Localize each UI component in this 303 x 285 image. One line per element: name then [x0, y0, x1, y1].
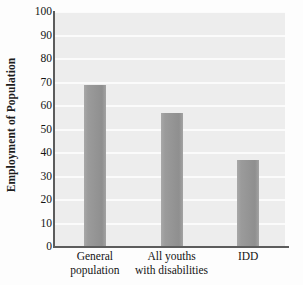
gridline	[55, 12, 285, 13]
bar	[161, 113, 183, 247]
y-tick-label: 80	[22, 53, 52, 65]
x-category-label: All youthswith disabilities	[133, 250, 210, 277]
x-category-label-line: IDD	[238, 250, 258, 262]
y-tick-label: 10	[22, 218, 52, 230]
x-category-label: IDD	[210, 250, 287, 264]
y-tick-label: 100	[22, 6, 52, 18]
y-tick-label: 50	[22, 124, 52, 136]
x-category-label-line: population	[57, 264, 134, 278]
plot-area	[55, 12, 285, 247]
y-axis-title-text: Employment of Population	[5, 58, 17, 193]
y-axis-tick-labels: 0102030405060708090100	[22, 12, 52, 247]
y-tick-label: 40	[22, 147, 52, 159]
y-tick-label: 0	[22, 241, 52, 253]
y-tick-label: 70	[22, 77, 52, 89]
y-tick-label: 90	[22, 30, 52, 42]
gridline	[55, 58, 285, 60]
gridline	[55, 82, 285, 84]
x-category-label-line: with disabilities	[133, 264, 210, 278]
x-axis-line	[53, 246, 289, 248]
x-category-label: Generalpopulation	[57, 250, 134, 277]
y-tick-label: 60	[22, 100, 52, 112]
y-axis-title: Employment of Population	[0, 0, 22, 250]
y-axis-line	[53, 11, 55, 248]
bar	[237, 160, 259, 247]
bar	[84, 85, 106, 247]
bar-chart-figure: Employment of Population 010203040506070…	[0, 0, 303, 285]
y-tick-label: 20	[22, 194, 52, 206]
x-category-label-line: General	[77, 250, 113, 262]
y-tick-label: 30	[22, 171, 52, 183]
x-axis-category-labels: GeneralpopulationAll youthswith disabili…	[55, 250, 285, 285]
x-category-label-line: All youths	[147, 250, 195, 262]
gridline	[55, 35, 285, 37]
